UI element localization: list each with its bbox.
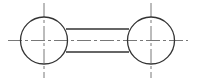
- technical-drawing: [0, 0, 198, 81]
- diagram-canvas: [0, 0, 198, 81]
